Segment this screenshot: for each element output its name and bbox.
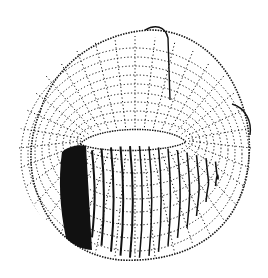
toroidal-coil-drawing [0, 0, 268, 278]
coil-dense-winding [60, 145, 92, 250]
figure-canvas [0, 0, 268, 278]
torus-hole [80, 129, 186, 150]
coil-right-lead [232, 104, 250, 135]
coil-top-lead [145, 27, 170, 100]
